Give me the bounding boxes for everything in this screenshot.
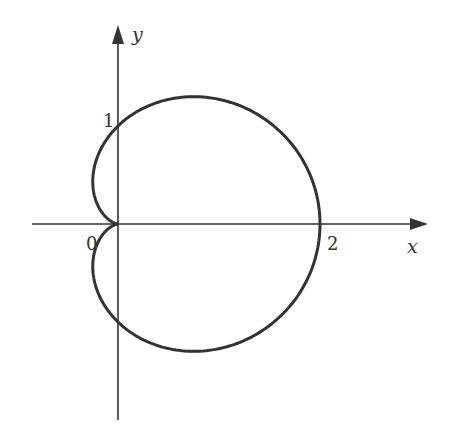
- y-axis-arrow-icon: [112, 25, 124, 44]
- cardioid-plot: y x 0 2 1: [0, 0, 450, 436]
- x-axis-label: x: [407, 235, 418, 257]
- y-axis-label: y: [131, 23, 143, 45]
- x-axis-arrow-icon: [410, 218, 428, 230]
- origin-label: 0: [86, 233, 97, 254]
- y-tick-1-label: 1: [103, 110, 114, 131]
- x-tick-2-label: 2: [327, 233, 338, 254]
